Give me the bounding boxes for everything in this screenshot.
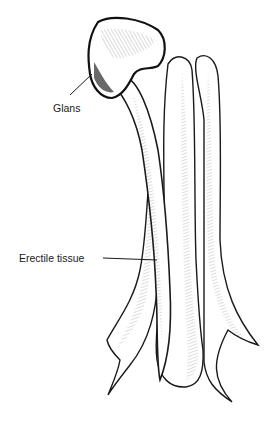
label-glans: Glans xyxy=(53,103,80,114)
right-crus xyxy=(196,56,258,402)
anatomical-illustration: Glans Erectile tissue xyxy=(0,0,274,425)
label-erectile-tissue: Erectile tissue xyxy=(19,253,84,264)
illustration-drawing xyxy=(0,0,274,425)
glans-leader-line xyxy=(70,74,92,95)
glans xyxy=(88,18,164,98)
